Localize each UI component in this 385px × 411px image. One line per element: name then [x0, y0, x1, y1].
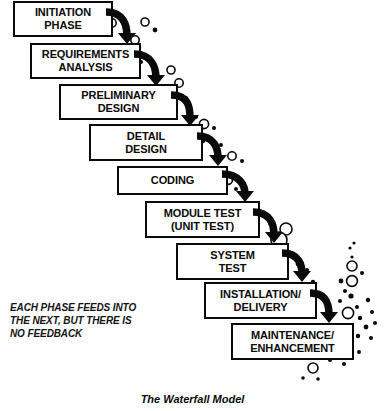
arrow-detail-to-coding [197, 136, 227, 166]
caption-note: EACH PHASE FEEDS INTOTHE NEXT, BUT THERE… [10, 301, 136, 341]
caption-line: NO FEEDBACK [10, 327, 136, 340]
arrow-initiation-to-requirements [106, 12, 136, 44]
arrow-requirements-to-preliminary [134, 54, 165, 86]
arrow-coding-to-module-test [222, 174, 254, 202]
arrow-system-test-to-installation [282, 253, 311, 282]
figure-title: The Waterfall Model [0, 393, 385, 405]
caption-line: EACH PHASE FEEDS INTO [10, 301, 136, 314]
arrow-layer [0, 0, 385, 411]
arrow-installation-to-maintenance [310, 293, 338, 323]
waterfall-model-diagram: INITIATIONPHASEREQUIREMENTSANALYSISPRELI… [0, 0, 385, 411]
arrow-module-test-to-system-test [253, 212, 283, 243]
caption-line: THE NEXT, BUT THERE IS [10, 314, 136, 327]
arrow-preliminary-to-detail [171, 95, 199, 126]
